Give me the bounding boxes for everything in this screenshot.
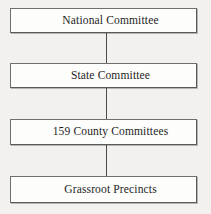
node-label: Grassroot Precincts [50,184,157,196]
connector-county-to-precincts [106,145,107,176]
diagram-node-state-committee: State Committee [10,63,197,88]
diagram-node-county-committees: 159 County Committees [10,119,197,145]
diagram-node-grassroot-precincts: Grassroot Precincts [10,176,197,203]
connector-national-to-state [106,33,107,63]
node-label: 159 County Committees [39,126,169,138]
org-hierarchy-diagram: National Committee State Committee 159 C… [0,0,211,214]
diagram-node-national-committee: National Committee [10,8,197,33]
node-label: State Committee [57,70,150,82]
connector-state-to-county [106,88,107,119]
node-label: National Committee [48,15,158,27]
